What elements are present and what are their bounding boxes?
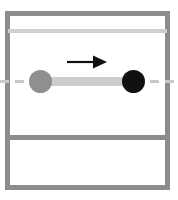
lower-horizontal-divider	[5, 135, 170, 140]
frame-left-bar	[5, 11, 10, 190]
upper-horizontal-rule	[8, 29, 167, 33]
direction-arrow-icon	[66, 53, 108, 71]
frame-right-bar	[165, 11, 170, 190]
left-mass-circle	[29, 70, 52, 93]
frame-bottom-bar	[5, 185, 170, 190]
arrow-head	[93, 56, 107, 69]
frame-top-bar	[5, 11, 170, 16]
right-mass-circle	[122, 70, 145, 93]
diagram-canvas	[0, 0, 178, 200]
connector-bar	[40, 77, 134, 86]
